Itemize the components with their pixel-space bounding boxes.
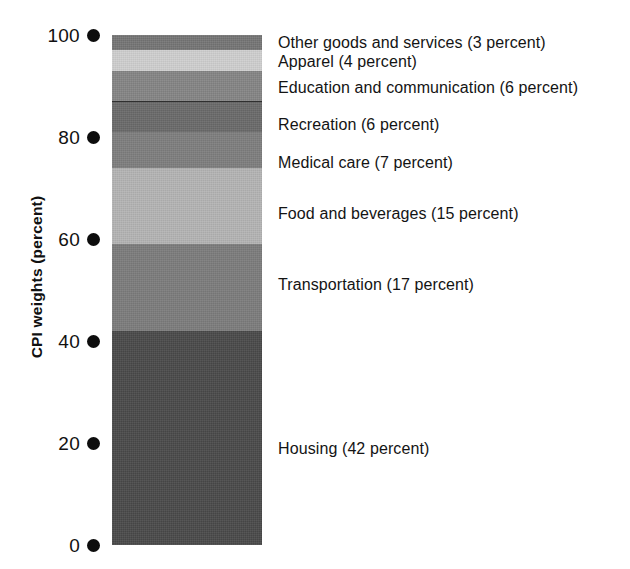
y-axis-title: CPI weights (percent) [28,162,46,392]
segment-transportation[interactable] [112,244,262,331]
y-tick-label: 20 [58,434,80,453]
tick-dot-icon [87,539,100,552]
y-tick-40: 40 [34,331,100,351]
label-transportation: Transportation (17 percent) [278,277,474,294]
y-tick-label: 0 [69,536,80,555]
y-tick-label: 100 [47,26,80,45]
stacked-bar [112,35,262,545]
label-food-and-beverages: Food and beverages (15 percent) [278,206,519,223]
y-tick-label: 40 [58,332,80,351]
y-tick-80: 80 [34,127,100,147]
y-tick-0: 0 [34,535,100,555]
tick-dot-icon [87,131,100,144]
label-medical-care: Medical care (7 percent) [278,155,453,172]
tick-dot-icon [87,437,100,450]
segment-food-and-beverages[interactable] [112,168,262,245]
label-other-goods-and-services: Other goods and services (3 percent) [278,35,546,52]
segment-other-goods-and-services[interactable] [112,35,262,50]
label-education-and-communication: Education and communication (6 percent) [278,80,578,97]
segment-housing[interactable] [112,331,262,545]
label-recreation: Recreation (6 percent) [278,117,439,134]
tick-dot-icon [87,29,100,42]
y-tick-label: 60 [58,230,80,249]
segment-apparel[interactable] [112,50,262,70]
label-housing: Housing (42 percent) [278,441,429,458]
cpi-weights-stacked-bar-chart: CPI weights (percent) 100 80 60 40 20 0 [0,0,630,569]
label-apparel: Apparel (4 percent) [278,54,417,71]
segment-education-and-communication[interactable] [112,71,262,102]
y-tick-60: 60 [34,229,100,249]
y-tick-20: 20 [34,433,100,453]
segment-recreation[interactable] [112,101,262,132]
y-tick-100: 100 [34,25,100,45]
y-tick-label: 80 [58,128,80,147]
tick-dot-icon [87,335,100,348]
segment-medical-care[interactable] [112,132,262,168]
tick-dot-icon [87,233,100,246]
